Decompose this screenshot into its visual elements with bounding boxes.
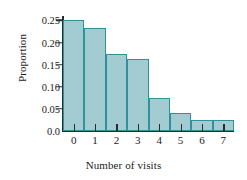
x-tick-label: 6 xyxy=(199,134,205,146)
y-tick-mark xyxy=(56,108,62,110)
x-tick-mark xyxy=(202,124,203,131)
y-tick-label: 0.20 xyxy=(16,37,60,48)
x-tick-mark xyxy=(223,124,224,131)
x-tick-mark xyxy=(181,124,182,131)
bar xyxy=(63,20,84,131)
x-tick-label: 0 xyxy=(71,134,77,146)
x-tick-label: 1 xyxy=(92,134,98,146)
x-tick-mark xyxy=(116,124,117,131)
y-tick-label: 0.25 xyxy=(16,15,60,26)
y-tick-label: 0.15 xyxy=(16,59,60,70)
x-tick-label: 7 xyxy=(221,134,227,146)
x-tick-label: 3 xyxy=(135,134,141,146)
y-axis-tick-labels: 0.00.050.100.150.200.25 xyxy=(16,0,60,180)
x-tick-label: 2 xyxy=(114,134,120,146)
x-tick-mark xyxy=(159,124,160,131)
x-tick-label: 5 xyxy=(178,134,184,146)
histogram-figure: Proportion 0.00.050.100.150.200.25 01234… xyxy=(0,0,247,180)
y-tick-label: 0.10 xyxy=(16,81,60,92)
y-tick-mark xyxy=(56,64,62,66)
y-tick-label: 0.0 xyxy=(16,126,60,137)
y-tick-label: 0.05 xyxy=(16,103,60,114)
x-axis-tick-labels: 01234567 xyxy=(63,134,234,150)
y-tick-mark xyxy=(56,86,62,88)
bar xyxy=(84,28,105,131)
x-tick-mark xyxy=(95,124,96,131)
y-tick-mark xyxy=(56,20,62,22)
x-tick-label: 4 xyxy=(156,134,162,146)
plot-area xyxy=(63,16,234,131)
x-tick-mark xyxy=(74,124,75,131)
x-axis-title: Number of visits xyxy=(0,159,247,171)
y-tick-mark xyxy=(56,42,62,44)
bar xyxy=(127,59,148,131)
x-tick-mark xyxy=(138,124,139,131)
bar xyxy=(106,54,127,131)
